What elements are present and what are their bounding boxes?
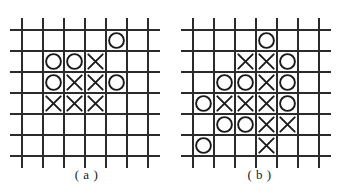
stone-cross — [259, 96, 273, 110]
stone-cross — [88, 75, 102, 89]
board-grid-a — [0, 0, 173, 194]
stone-cross — [46, 96, 60, 110]
stone-cross — [280, 117, 294, 131]
stone-circle — [280, 54, 295, 69]
figure-root: ( a ) ( b ) — [0, 0, 346, 194]
board-grid-b — [173, 0, 346, 194]
stone-circle — [196, 138, 211, 153]
panel-caption-a: ( a ) — [0, 167, 173, 183]
panel-caption-b: ( b ) — [173, 167, 346, 183]
stone-cross — [67, 96, 81, 110]
stone-circle — [217, 75, 232, 90]
stone-circle — [238, 117, 253, 132]
stone-cross — [259, 75, 273, 89]
board-panel-a: ( a ) — [0, 0, 173, 194]
stone-circle — [67, 54, 82, 69]
stone-circle — [280, 96, 295, 111]
stone-cross — [217, 96, 231, 110]
stone-circle — [217, 117, 232, 132]
stone-cross — [259, 117, 273, 131]
stone-circle — [259, 33, 274, 48]
stone-cross — [88, 96, 102, 110]
stone-circle — [109, 75, 124, 90]
stone-circle — [280, 75, 295, 90]
grid-lines — [10, 18, 160, 168]
stone-circle — [238, 75, 253, 90]
stone-circle — [196, 96, 211, 111]
stone-circle — [46, 54, 61, 69]
stone-cross — [259, 138, 273, 152]
stone-circle — [46, 75, 61, 90]
stone-cross — [238, 54, 252, 68]
stone-cross — [238, 96, 252, 110]
stone-cross — [259, 54, 273, 68]
stone-cross — [88, 54, 102, 68]
stone-cross — [67, 75, 81, 89]
board-panel-b: ( b ) — [173, 0, 346, 194]
stone-circle — [109, 33, 124, 48]
grid-lines — [181, 18, 331, 168]
